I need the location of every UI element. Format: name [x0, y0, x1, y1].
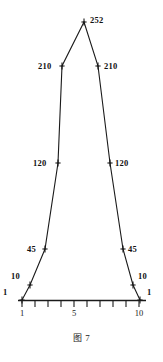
- x-tick-label-10: 10: [131, 309, 147, 318]
- data-point-marker: [107, 160, 112, 167]
- x-tick-label-5: 5: [68, 309, 80, 318]
- data-label-right-1: 1: [147, 288, 151, 297]
- data-label-left-1: 1: [3, 288, 7, 297]
- data-label-left-210: 210: [38, 62, 51, 71]
- data-label-right-120: 120: [115, 159, 128, 168]
- data-point-marker: [95, 63, 100, 70]
- data-label-left-120: 120: [33, 159, 46, 168]
- data-label-peak-252: 252: [90, 16, 103, 25]
- x-axis: [18, 301, 146, 308]
- data-point-marker: [42, 246, 47, 253]
- data-point-marker: [81, 19, 86, 26]
- data-label-right-45: 45: [128, 245, 137, 254]
- data-point-marker: [59, 63, 64, 70]
- data-point-marker: [130, 282, 135, 289]
- data-label-left-45: 45: [27, 245, 36, 254]
- data-label-right-10: 10: [138, 272, 147, 281]
- figure-caption: 图 7: [0, 331, 163, 344]
- data-label-left-10: 10: [11, 272, 20, 281]
- x-axis-ticks: [22, 301, 139, 308]
- data-label-right-210: 210: [104, 62, 117, 71]
- figure-container: 1 10 45 120 210 252 210 120 45 10 1 1 5 …: [0, 0, 163, 362]
- data-point-marker: [120, 246, 125, 253]
- data-point-marker: [55, 160, 60, 167]
- x-tick-label-1: 1: [16, 309, 28, 318]
